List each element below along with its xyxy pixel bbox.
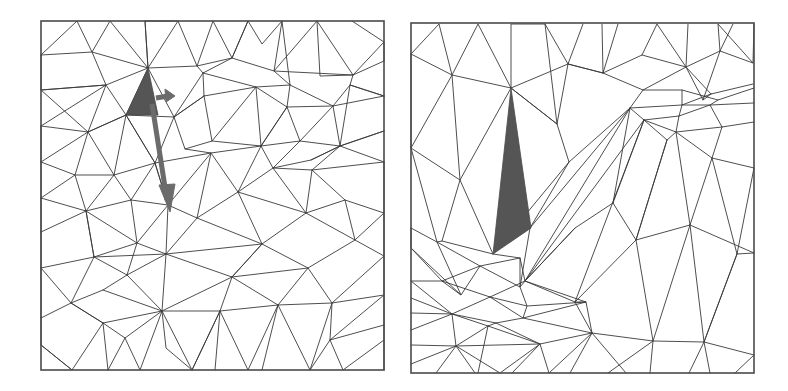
right-highlighted-element (493, 88, 531, 254)
right-panel-frame (411, 23, 754, 373)
right-mesh-edges (411, 24, 754, 373)
left-mesh-edges (41, 21, 384, 370)
left-mesh-panel (0, 0, 394, 391)
right-arrow-head-icon (165, 89, 175, 102)
left-mesh-svg (0, 0, 394, 391)
left-panel-frame (41, 21, 384, 370)
down-arrow-head-icon (159, 184, 175, 212)
right-mesh-panel (394, 0, 788, 391)
right-mesh-svg (394, 0, 788, 391)
